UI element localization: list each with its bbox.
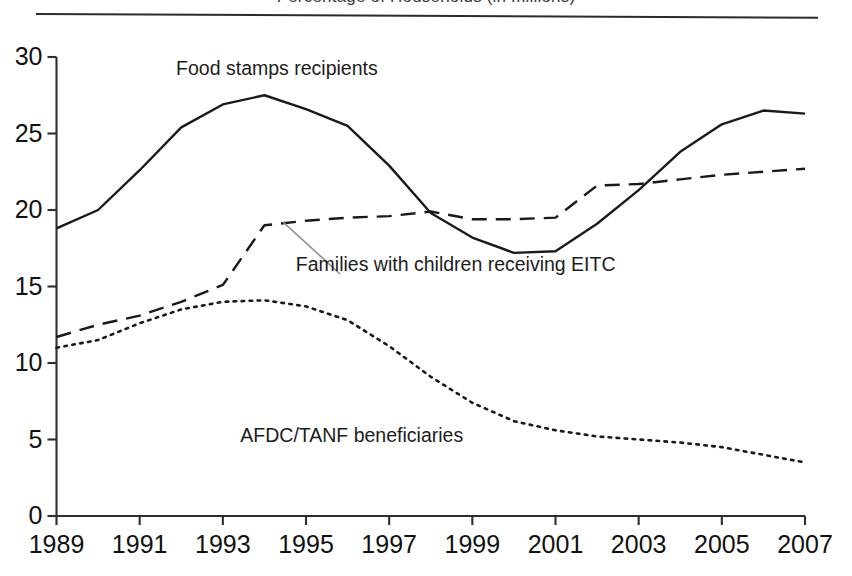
y-axis-label: 5 xyxy=(29,427,43,452)
y-axis-label: 25 xyxy=(15,121,43,146)
afdc-tanf-annotation: AFDC/TANF beneficiaries xyxy=(240,426,463,446)
x-axis-label: 2003 xyxy=(599,532,679,557)
line-chart-plot xyxy=(0,0,852,576)
x-axis-label: 1991 xyxy=(100,532,180,557)
x-axis-label: 1993 xyxy=(183,532,263,557)
y-axis-label: 30 xyxy=(15,44,43,69)
x-axis-label: 2007 xyxy=(765,532,845,557)
x-axis-label: 1999 xyxy=(432,532,512,557)
y-axis-label: 0 xyxy=(29,503,43,528)
x-axis-label: 1995 xyxy=(266,532,346,557)
y-axis-label: 15 xyxy=(15,274,43,299)
axis-lines xyxy=(57,57,806,516)
chart-figure: Percentage of Households (in millions) 0… xyxy=(0,0,852,576)
chart-axes xyxy=(48,57,806,525)
y-axis-label: 10 xyxy=(15,350,43,375)
eitc-annotation: Families with children receiving EITC xyxy=(296,255,616,275)
x-axis-label: 1997 xyxy=(349,532,429,557)
x-axis-label: 1989 xyxy=(17,532,97,557)
food-stamps-annotation: Food stamps recipients xyxy=(176,59,378,79)
x-axis-label: 2005 xyxy=(682,532,762,557)
chart-series-line-0 xyxy=(57,95,806,253)
x-axis-label: 2001 xyxy=(516,532,596,557)
y-axis-label: 20 xyxy=(15,197,43,222)
chart-series-layer xyxy=(57,95,806,462)
